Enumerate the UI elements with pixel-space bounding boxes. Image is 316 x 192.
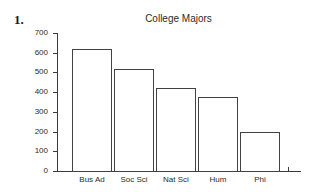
y-axis-tick — [53, 112, 57, 113]
y-axis-tick-label: 400 — [8, 88, 48, 96]
y-axis-tick — [53, 171, 57, 172]
y-axis-tick — [53, 72, 57, 73]
y-axis-tick-label: 600 — [8, 49, 48, 57]
bar — [198, 97, 238, 172]
y-axis-tick-label: 500 — [8, 68, 48, 76]
y-axis-line — [57, 33, 58, 172]
y-axis-tick — [53, 132, 57, 133]
bar-chart-figure: 1. College Majors 0100200300400500600700… — [0, 0, 316, 192]
bar — [114, 69, 154, 172]
y-axis-tick — [53, 92, 57, 93]
x-axis-label-phi: Phi — [232, 175, 288, 185]
y-axis-tick-label: 0 — [8, 167, 48, 175]
y-axis-tick-label: 200 — [8, 128, 48, 136]
y-axis-tick — [53, 151, 57, 152]
bar — [72, 49, 112, 172]
y-axis-tick-label: 700 — [8, 29, 48, 37]
plot-area: 0100200300400500600700 Bus AdSoc SciNat … — [0, 0, 316, 192]
bar — [156, 88, 196, 172]
y-axis-tick-label: 300 — [8, 108, 48, 116]
x-axis-tick — [57, 167, 58, 171]
y-axis-tick — [53, 53, 57, 54]
y-axis-tick — [53, 33, 57, 34]
x-axis-tick — [288, 167, 289, 171]
bar — [240, 132, 280, 172]
y-axis-tick-label: 100 — [8, 147, 48, 155]
